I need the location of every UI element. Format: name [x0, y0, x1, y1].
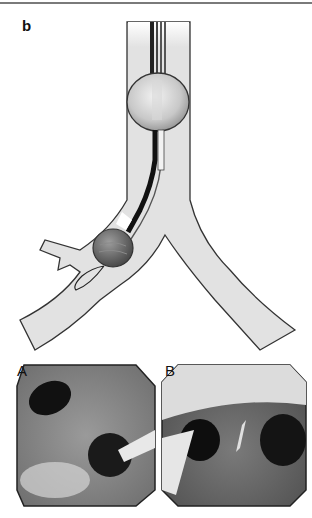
endoscopic-photo-B	[162, 365, 306, 506]
blocker-balloon	[93, 229, 133, 267]
endoscopic-photo-A	[17, 365, 155, 506]
photo-label-A: A	[17, 362, 27, 379]
bronchial-blocker-diagram	[0, 0, 312, 518]
photo-label-B: B	[165, 362, 175, 379]
